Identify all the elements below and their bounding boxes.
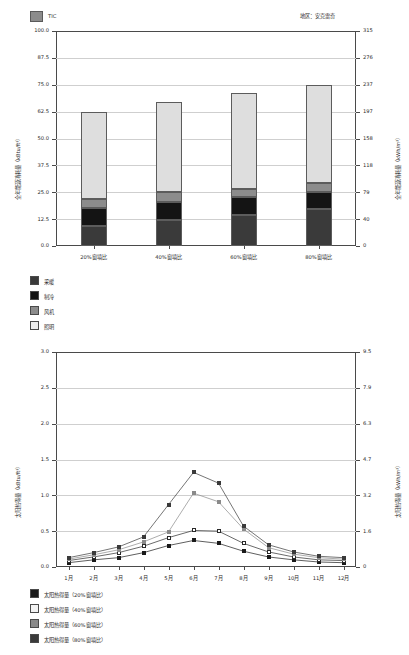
data-point [167, 530, 171, 534]
data-point [267, 543, 271, 547]
data-point [192, 470, 196, 474]
data-point [267, 555, 271, 559]
data-point [192, 491, 196, 495]
bottom-chart-right-axis-title: 太阳热得量（kWh/m²） [396, 463, 401, 518]
legend-swatch-3 [30, 634, 39, 643]
line-太阳热得量（40%窗墙比） [69, 530, 344, 560]
legend-item-1: 太阳热得量（40%窗墙比） [30, 604, 200, 613]
data-point [342, 556, 346, 560]
data-point [167, 503, 171, 507]
report-page: TIC 地区：安克雷奇 100.031587.527675.023762.519… [0, 0, 409, 655]
data-point [217, 481, 221, 485]
legend-item-0: 太阳热得量（20%窗墙比） [30, 589, 200, 598]
data-point [142, 544, 146, 548]
bottom-chart-lines [0, 0, 409, 655]
data-point [92, 551, 96, 555]
data-point [142, 535, 146, 539]
data-point [117, 556, 121, 560]
legend-label-2: 太阳热得量（60%窗墙比） [44, 621, 106, 628]
data-point [217, 529, 221, 533]
data-point [67, 556, 71, 560]
data-point [242, 541, 246, 545]
data-point [167, 544, 171, 548]
bottom-chart-left-axis-title: 太阳热得量（kBtu/ft²） [16, 464, 21, 518]
data-point [242, 549, 246, 553]
legend-swatch-1 [30, 604, 39, 613]
data-point [142, 551, 146, 555]
legend-item-2: 太阳热得量（60%窗墙比） [30, 619, 200, 628]
legend-label-0: 太阳热得量（20%窗墙比） [44, 591, 106, 598]
data-point [192, 538, 196, 542]
data-point [242, 524, 246, 528]
legend-swatch-2 [30, 619, 39, 628]
data-point [217, 541, 221, 545]
data-point [117, 545, 121, 549]
data-point [217, 500, 221, 504]
data-point [292, 550, 296, 554]
legend-label-3: 太阳热得量（80%窗墙比） [44, 636, 106, 643]
legend-item-3: 太阳热得量（80%窗墙比） [30, 634, 200, 643]
legend-label-1: 太阳热得量（40%窗墙比） [44, 606, 106, 613]
line-太阳热得量（80%窗墙比） [69, 472, 344, 557]
data-point [142, 540, 146, 544]
data-point [167, 536, 171, 540]
data-point [192, 528, 196, 532]
data-point [317, 554, 321, 558]
data-point [267, 550, 271, 554]
legend-swatch-0 [30, 589, 39, 598]
